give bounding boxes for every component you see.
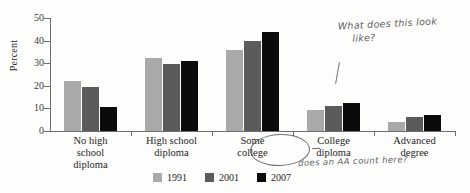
x-category-label-line: Advanced (374, 135, 456, 147)
y-tick-value: 40 (14, 36, 44, 46)
y-tick-value: 30 (14, 58, 44, 68)
y-tick-value: 50 (14, 13, 44, 23)
x-separator-tick (455, 131, 456, 136)
bar (181, 61, 198, 131)
x-category-label: Somecollege (212, 135, 294, 159)
legend-item: 1991 (153, 172, 187, 183)
bar (406, 117, 423, 131)
x-category-label-line: school (50, 147, 132, 159)
bar (82, 87, 99, 131)
x-category-label: Collegediploma (293, 135, 375, 159)
x-category-label-line: College (293, 135, 375, 147)
y-tick-label: 10 (0, 103, 44, 113)
x-category-label-line: degree (374, 147, 456, 159)
x-category-label-line: college (212, 147, 294, 159)
legend: 199120012007 (153, 172, 291, 183)
x-category-label-line: diploma (131, 147, 213, 159)
x-category-label-line: diploma (293, 147, 375, 159)
legend-swatch (257, 173, 266, 182)
legend-label: 1991 (167, 172, 187, 183)
y-tick-value: 20 (14, 81, 44, 91)
x-category-label: No highschooldiploma (50, 135, 132, 171)
bar (226, 50, 243, 131)
y-tick-value: 0 (14, 126, 44, 136)
bar (343, 103, 360, 131)
y-tick-label: 50 (0, 13, 44, 23)
legend-item: 2007 (257, 172, 291, 183)
x-separator-tick (374, 131, 375, 136)
y-tick-value: 10 (14, 103, 44, 113)
x-category-label: Advanceddegree (374, 135, 456, 159)
chart-screenshot: Percent 01020304050 No highschooldiploma… (0, 0, 470, 193)
y-axis-title: Percent (8, 26, 19, 86)
x-separator-tick (293, 131, 294, 136)
bar (325, 106, 342, 131)
legend-swatch (205, 173, 214, 182)
y-tick-label: 30 (0, 58, 44, 68)
legend-label: 2001 (219, 172, 239, 183)
bar (64, 81, 81, 131)
bar (244, 41, 261, 131)
legend-label: 2007 (271, 172, 291, 183)
bar (262, 32, 279, 131)
bar (163, 64, 180, 131)
x-separator-tick (212, 131, 213, 136)
x-category-label: High schooldiploma (131, 135, 213, 159)
y-tick-label: 20 (0, 81, 44, 91)
x-category-label-line: High school (131, 135, 213, 147)
bar (145, 58, 162, 131)
bar (307, 110, 324, 131)
bar (388, 122, 405, 131)
bar (100, 107, 117, 131)
x-category-label-line: No high (50, 135, 132, 147)
plot-area (50, 18, 455, 131)
legend-swatch (153, 173, 162, 182)
x-category-label-line: Some (212, 135, 294, 147)
bar (424, 115, 441, 131)
x-axis-line (50, 131, 455, 132)
x-separator-tick (131, 131, 132, 136)
legend-item: 2001 (205, 172, 239, 183)
x-category-label-line: diploma (50, 159, 132, 171)
y-tick-label: 40 (0, 36, 44, 46)
y-tick-label: 0 (0, 126, 44, 136)
